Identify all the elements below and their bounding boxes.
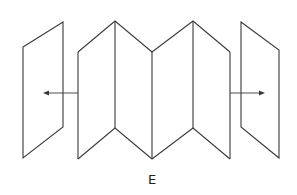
left-panel bbox=[23, 22, 63, 158]
sheet-top-edge bbox=[78, 21, 230, 52]
folded-sheet bbox=[78, 21, 230, 159]
sheet-bottom-edge bbox=[78, 128, 230, 159]
figure-label: E bbox=[145, 172, 159, 187]
left-arrow-icon bbox=[43, 91, 78, 96]
accordion-fold-diagram bbox=[0, 0, 297, 195]
right-arrow-icon bbox=[230, 91, 265, 96]
right-panel bbox=[241, 22, 279, 158]
